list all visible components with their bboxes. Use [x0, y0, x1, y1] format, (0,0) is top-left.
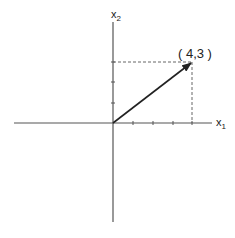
- vector-diagram: ( 4,3 ) x2 x1: [0, 0, 235, 238]
- x2-axis-label: x2: [111, 8, 122, 23]
- vector-arrow: [113, 63, 191, 123]
- point-label: ( 4,3 ): [178, 46, 212, 61]
- x1-axis-label: x1: [216, 116, 227, 131]
